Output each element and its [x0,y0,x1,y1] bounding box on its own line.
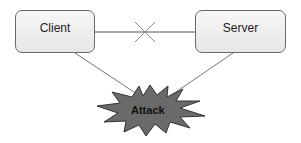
server-attack-line [170,53,233,96]
server-node: Server [195,10,286,53]
diagram: Client Server Attack [0,0,301,143]
server-label: Server [223,21,258,52]
attack-label: Attack [131,104,165,116]
client-attack-line [75,53,137,94]
client-node: Client [15,10,95,53]
client-label: Client [40,21,71,52]
